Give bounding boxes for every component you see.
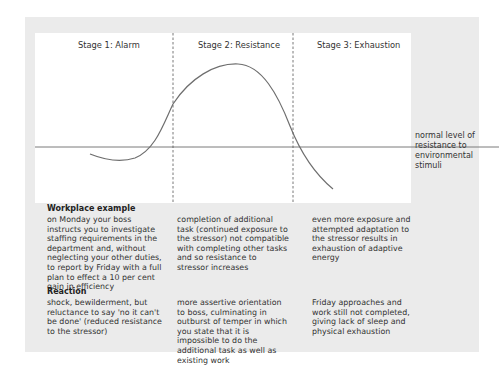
stage-1-label: Stage 1: Alarm [78, 40, 140, 50]
workplace-example-alarm: on Monday your boss instructs you to inv… [47, 215, 167, 292]
reaction-title: Reaction [47, 287, 86, 296]
baseline-label: normal level of resistance to environmen… [415, 131, 495, 171]
workplace-example-title: Workplace example [47, 204, 135, 213]
reaction-resistance: more assertive orientation to boss, culm… [177, 298, 289, 365]
resistance-curve [90, 64, 333, 189]
stage-2-label: Stage 2: Resistance [198, 40, 280, 50]
workplace-example-resistance: completion of additional task (continued… [177, 215, 289, 273]
reaction-alarm: shock, bewilderment, but reluctance to s… [47, 298, 162, 336]
stage-3-label: Stage 3: Exhaustion [317, 40, 400, 50]
reaction-exhaustion: Friday approaches and work still not com… [312, 298, 412, 336]
workplace-example-exhaustion: even more exposure and attempted adaptat… [312, 215, 412, 263]
